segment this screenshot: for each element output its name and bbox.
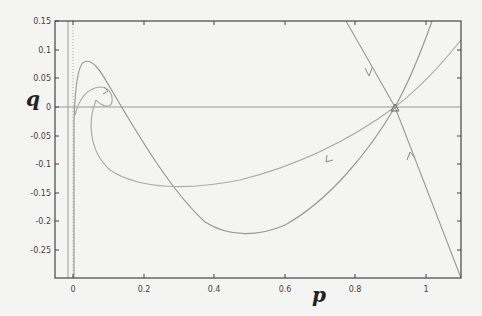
y-tick-label: 0 bbox=[46, 103, 51, 112]
y-tick-label: -0.2 bbox=[35, 217, 51, 226]
x-axis: 0 0.2 0.4 0.6 0.8 1 bbox=[70, 21, 428, 294]
y-tick-label: -0.1 bbox=[35, 160, 51, 169]
plot-frame bbox=[55, 21, 461, 278]
y-tick-label: -0.15 bbox=[30, 189, 51, 198]
arrow-icon bbox=[365, 68, 372, 76]
separatrix bbox=[346, 21, 461, 278]
trajectory-1 bbox=[74, 21, 432, 278]
trajectory-2 bbox=[75, 40, 461, 187]
arrow-icon bbox=[407, 152, 415, 160]
x-tick-label: 0.6 bbox=[279, 285, 292, 294]
arrow-icon bbox=[326, 155, 333, 162]
chart-svg: 0.15 0.1 0.05 0 -0.05 -0.1 -0.15 -0.2 -0… bbox=[0, 0, 482, 316]
x-tick-label: 1 bbox=[423, 285, 428, 294]
y-tick-label: 0.05 bbox=[33, 74, 51, 83]
y-tick-label: -0.05 bbox=[30, 132, 51, 141]
x-axis-label: p bbox=[312, 283, 326, 307]
y-axis-label: q bbox=[26, 87, 40, 111]
x-tick-label: 0 bbox=[70, 285, 75, 294]
x-tick-label: 0.4 bbox=[208, 285, 221, 294]
x-tick-label: 0.2 bbox=[138, 285, 151, 294]
phase-plot: 0.15 0.1 0.05 0 -0.05 -0.1 -0.15 -0.2 -0… bbox=[0, 0, 482, 316]
y-tick-label: 0.15 bbox=[33, 17, 51, 26]
x-tick-label: 0.8 bbox=[349, 285, 362, 294]
y-tick-label: -0.25 bbox=[30, 246, 51, 255]
y-tick-label: 0.1 bbox=[38, 46, 51, 55]
